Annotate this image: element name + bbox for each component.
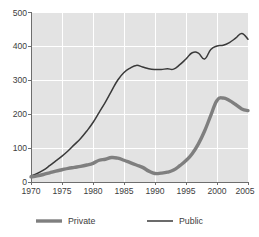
x-tick-label-2000: 2000 — [207, 186, 226, 196]
y-tick-label-200: 200 — [13, 109, 28, 119]
x-tick-label-1990: 1990 — [145, 186, 164, 196]
x-tick-label-1980: 1980 — [83, 186, 102, 196]
legend-label-private: Private — [68, 216, 95, 226]
plot-area-background — [31, 12, 248, 182]
legend-label-public: Public — [179, 216, 204, 226]
line-chart: 0 100 200 300 400 500 1970 1975 1980 198… — [0, 0, 259, 237]
x-tick-label-1975: 1975 — [52, 186, 71, 196]
x-tick-label-1985: 1985 — [114, 186, 133, 196]
y-tick-label-300: 300 — [13, 75, 28, 85]
legend: Private Public — [36, 216, 204, 226]
y-tick-label-400: 400 — [13, 41, 28, 51]
x-tick-label-1995: 1995 — [176, 186, 195, 196]
x-tick-label-2005: 2005 — [235, 186, 254, 196]
x-tick-label-1970: 1970 — [21, 186, 40, 196]
chart-canvas: 0 100 200 300 400 500 1970 1975 1980 198… — [0, 0, 259, 237]
y-tick-label-500: 500 — [13, 8, 28, 18]
y-tick-label-100: 100 — [13, 143, 28, 153]
